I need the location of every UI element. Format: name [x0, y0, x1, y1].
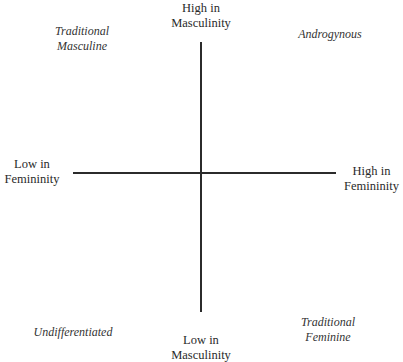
axis-label-high-masculinity: High in Masculinity [145, 1, 257, 31]
axis-label-line: Masculinity [145, 348, 257, 362]
quadrant-undifferentiated: Undifferentiated [13, 325, 133, 340]
axis-label-line: Low in [0, 157, 64, 172]
quadrant-androgynous: Androgynous [280, 27, 380, 42]
axis-label-line: Masculinity [145, 16, 257, 31]
gender-role-quadrant-diagram: High in Masculinity Low in Masculinity L… [0, 0, 403, 362]
quadrant-label-line: Androgynous [280, 27, 380, 42]
quadrant-label-line: Masculine [27, 39, 137, 54]
axis-label-line: High in [145, 1, 257, 16]
axis-label-line: Femininity [0, 172, 64, 187]
axis-label-low-femininity: Low in Femininity [0, 157, 64, 187]
femininity-axis-line [73, 172, 336, 174]
axis-label-line: Low in [145, 333, 257, 348]
masculinity-axis-line [200, 42, 202, 312]
axis-label-line: Femininity [340, 179, 403, 194]
quadrant-traditional-masculine: Traditional Masculine [27, 24, 137, 54]
quadrant-label-line: Undifferentiated [13, 325, 133, 340]
quadrant-label-line: Feminine [278, 330, 378, 345]
quadrant-label-line: Traditional [278, 315, 378, 330]
axis-label-high-femininity: High in Femininity [340, 164, 403, 194]
axis-label-low-masculinity: Low in Masculinity [145, 333, 257, 362]
quadrant-label-line: Traditional [27, 24, 137, 39]
quadrant-traditional-feminine: Traditional Feminine [278, 315, 378, 345]
axis-label-line: High in [340, 164, 403, 179]
